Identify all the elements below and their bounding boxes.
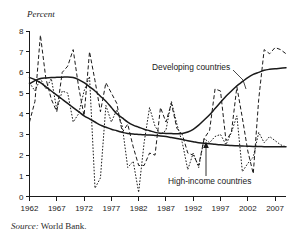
x-tick-label: 1987: [157, 204, 175, 213]
x-tick-label: 2007: [266, 204, 284, 213]
y-tick-label: 3: [19, 130, 24, 139]
developing-countries-annotation-label: Developing countries: [152, 62, 230, 72]
x-tick-label: 1977: [102, 204, 120, 213]
x-tick-label: 1997: [212, 204, 230, 213]
y-tick-label: 5: [19, 89, 24, 98]
y-tick-label: 1: [19, 172, 24, 181]
x-tick-label: 1992: [184, 204, 202, 213]
source-label: Source:: [11, 221, 39, 231]
source-value: World Bank.: [41, 221, 87, 231]
x-tick-label: 1972: [75, 204, 93, 213]
y-tick-label: 6: [19, 68, 24, 77]
y-axis-ticks: 012345678: [19, 27, 29, 202]
x-tick-label: 2002: [239, 204, 257, 213]
y-axis-title: Percent: [26, 9, 55, 19]
y-tick-label: 4: [19, 110, 24, 119]
y-tick-label: 8: [19, 27, 24, 36]
figure-container: Percent 012345678 1962196719721977198219…: [0, 0, 292, 241]
y-tick-label: 2: [19, 151, 24, 160]
developing-countries-trend-line: [30, 68, 287, 134]
growth-rate-line-chart: Percent 012345678 1962196719721977198219…: [0, 0, 292, 241]
y-tick-label: 0: [19, 193, 24, 202]
high-income-countries-arrow-head: [203, 142, 209, 149]
x-tick-label: 1967: [48, 204, 66, 213]
y-tick-label: 7: [19, 48, 24, 57]
x-axis-ticks: 1962196719721977198219871992199720022007: [21, 197, 285, 213]
x-tick-label: 1982: [130, 204, 148, 213]
high-income-countries-trend-line: [30, 78, 287, 147]
high-income-countries-annotation-label: High-income countries: [168, 176, 251, 186]
source-note: Source: World Bank.: [11, 221, 87, 231]
x-tick-label: 1962: [21, 204, 39, 213]
